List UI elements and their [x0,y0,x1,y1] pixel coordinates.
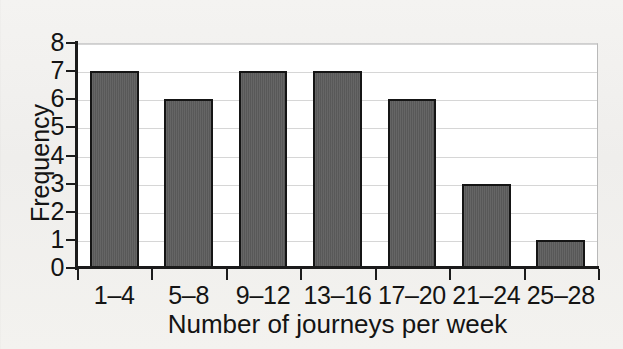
bar [388,99,437,268]
bar [90,71,139,268]
histogram-chart: 876543210 1–45–89–1213–1617–2021–2425–28… [0,0,623,349]
x-axis-tick [226,269,228,280]
x-axis-title: Number of journeys per week [77,309,598,339]
x-axis-tick-label: 13–16 [300,281,374,309]
bar [164,99,213,268]
x-axis-tick [151,269,153,280]
x-axis-tick-label: 9–12 [226,281,300,309]
x-axis-tick-label: 17–20 [375,281,449,309]
x-axis-tick [449,269,451,280]
y-axis-tick [66,126,76,128]
x-axis-tick [598,269,600,280]
bar [536,240,585,268]
y-axis-title: Frequency [27,63,53,263]
x-axis-tick [375,269,377,280]
y-axis-tick [66,42,76,44]
bar [462,184,511,268]
x-axis-tick [300,269,302,280]
x-axis-tick [77,269,79,280]
y-axis-tick [66,70,76,72]
y-axis-tick [66,98,76,100]
y-axis-tick [66,267,76,269]
gridline [77,44,597,45]
y-axis-tick [66,183,76,185]
x-axis-line [75,266,599,269]
bar [239,71,288,268]
x-axis-tick-label: 5–8 [151,281,225,309]
x-axis-tick [524,269,526,280]
y-axis-tick [66,155,76,157]
y-axis-tick [66,239,76,241]
plot-area [77,43,598,268]
x-axis-tick-label: 1–4 [77,281,151,309]
bar [313,71,362,268]
y-axis-tick-label: 8 [38,30,64,55]
x-axis-tick-label: 25–28 [524,281,598,309]
x-axis-tick-label: 21–24 [449,281,523,309]
y-axis-tick [66,211,76,213]
